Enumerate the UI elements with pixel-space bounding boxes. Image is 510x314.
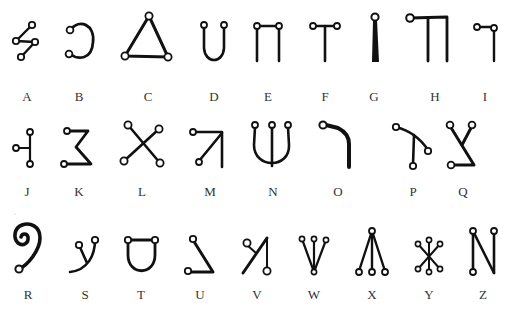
glyph-g-icon bbox=[371, 13, 379, 62]
letter-label-k: K bbox=[74, 185, 83, 198]
glyph-d-icon bbox=[201, 22, 227, 60]
glyph-c-icon bbox=[121, 12, 171, 60]
letter-label-v: V bbox=[252, 288, 261, 301]
letter-label-a: A bbox=[22, 90, 31, 103]
letter-label-u: U bbox=[195, 288, 204, 301]
letter-label-d: D bbox=[209, 90, 218, 103]
letter-label-e: E bbox=[264, 90, 272, 103]
glyph-l-icon bbox=[120, 121, 163, 166]
letter-label-s: S bbox=[81, 288, 88, 301]
glyph-e-icon bbox=[254, 23, 282, 61]
letter-label-z: Z bbox=[479, 288, 487, 301]
letter-label-n: N bbox=[268, 185, 277, 198]
glyph-k-icon bbox=[61, 128, 91, 167]
glyph-y-icon bbox=[415, 237, 442, 274]
glyph-q-icon bbox=[447, 122, 476, 169]
letter-label-y: Y bbox=[424, 288, 433, 301]
letter-label-r: R bbox=[24, 288, 33, 301]
glyph-n-icon bbox=[252, 122, 291, 166]
glyph-w-icon bbox=[299, 236, 328, 274]
glyph-p-icon bbox=[393, 124, 431, 169]
letter-label-m: M bbox=[204, 185, 216, 198]
glyph-o-icon bbox=[319, 121, 349, 167]
glyph-h-icon bbox=[406, 14, 447, 61]
glyph-i-icon bbox=[474, 24, 497, 61]
letter-label-l: L bbox=[138, 185, 146, 198]
letter-label-t: T bbox=[137, 288, 145, 301]
letter-label-g: G bbox=[369, 90, 378, 103]
cipher-glyphs bbox=[0, 0, 510, 314]
glyph-t-icon bbox=[125, 237, 158, 271]
letter-label-c: C bbox=[144, 90, 153, 103]
letter-label-f: F bbox=[321, 90, 328, 103]
letter-label-w: W bbox=[308, 288, 320, 301]
glyph-j-icon bbox=[13, 129, 33, 167]
letter-label-h: H bbox=[430, 90, 439, 103]
glyph-v-icon bbox=[243, 238, 271, 275]
glyph-s-icon bbox=[70, 237, 98, 272]
letter-label-x: X bbox=[367, 288, 376, 301]
glyph-m-icon bbox=[190, 129, 222, 167]
glyph-a-icon bbox=[13, 22, 38, 60]
letter-label-i: I bbox=[483, 90, 487, 103]
letter-label-q: Q bbox=[458, 185, 467, 198]
letter-label-j: J bbox=[24, 185, 29, 198]
glyph-r-icon bbox=[15, 214, 41, 273]
glyph-b-icon bbox=[66, 24, 94, 58]
letter-label-p: P bbox=[409, 185, 416, 198]
glyph-z-icon bbox=[470, 228, 497, 275]
letter-label-o: O bbox=[333, 185, 342, 198]
glyph-f-icon bbox=[310, 23, 340, 61]
glyph-x-icon bbox=[356, 228, 388, 275]
letter-label-b: B bbox=[75, 90, 84, 103]
glyph-u-icon bbox=[185, 236, 213, 274]
